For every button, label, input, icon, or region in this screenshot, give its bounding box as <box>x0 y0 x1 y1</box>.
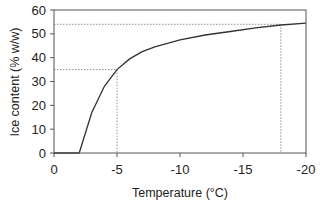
plot-area-frame <box>54 10 306 153</box>
x-tick-label: -10 <box>171 162 190 177</box>
x-axis-ticks: 0-5-10-15-20 <box>50 153 315 177</box>
y-tick-label: 30 <box>32 74 46 89</box>
y-tick-label: 40 <box>32 50 46 65</box>
y-axis-label: Ice content (% w/w) <box>8 27 22 136</box>
y-tick-label: 50 <box>32 26 46 41</box>
x-tick-label: -20 <box>297 162 316 177</box>
ice-content-chart: 0102030405060 0-5-10-15-20 Temperature (… <box>0 0 328 210</box>
x-tick-label: -5 <box>111 162 123 177</box>
y-tick-label: 0 <box>39 146 46 161</box>
y-axis-ticks: 0102030405060 <box>32 3 54 161</box>
x-tick-label: -15 <box>234 162 253 177</box>
y-tick-label: 20 <box>32 98 46 113</box>
x-tick-label: 0 <box>50 162 57 177</box>
y-tick-label: 10 <box>32 122 46 137</box>
x-axis-label: Temperature (°C) <box>132 186 228 200</box>
y-tick-label: 60 <box>32 3 46 18</box>
ice-content-curve <box>54 23 306 153</box>
